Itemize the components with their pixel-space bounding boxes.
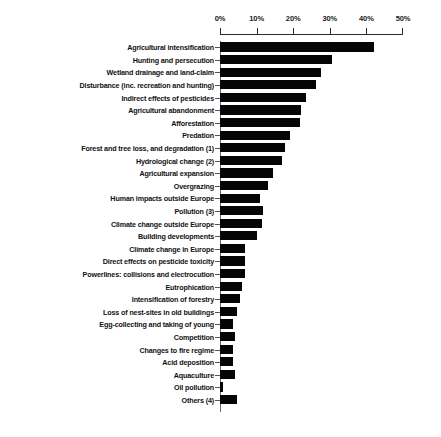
bar: [220, 118, 300, 127]
bar-row: Direct effects on pesticide toxicity: [0, 255, 441, 268]
category-label: Changes to fire regime: [139, 345, 214, 354]
category-label: Acid deposition: [162, 358, 214, 367]
bar: [220, 307, 237, 316]
bar: [220, 168, 273, 177]
bar: [220, 256, 245, 265]
bar-row: Human impacts outside Europe: [0, 192, 441, 205]
bar-row: Climate change outside Europe: [0, 217, 441, 230]
bar-track: [220, 230, 435, 243]
bar-track: [220, 318, 435, 331]
bar-track: [220, 381, 435, 394]
bar: [220, 143, 285, 152]
category-label: Predation: [182, 131, 214, 140]
category-label: Building developments: [138, 232, 214, 241]
bar-row: Overgrazing: [0, 180, 441, 193]
x-axis-tick-label: 20%: [286, 14, 301, 23]
bar-track: [220, 117, 435, 130]
bar-track: [220, 54, 435, 67]
bar-track: [220, 205, 435, 218]
bar-row: Intensification of forestry: [0, 293, 441, 306]
bar: [220, 395, 237, 404]
x-axis-tick-mark: [257, 28, 258, 35]
category-label: Overgrazing: [174, 181, 214, 190]
bar-track: [220, 91, 435, 104]
category-label: Forest and tree loss, and degradation (1…: [81, 144, 214, 153]
bar: [220, 269, 245, 278]
x-axis-tick-label: 0%: [215, 14, 226, 23]
x-axis-tick-mark: [220, 28, 221, 35]
category-label: Intensification of forestry: [132, 295, 214, 304]
bar: [220, 231, 257, 240]
bar-row: Predation: [0, 129, 441, 142]
x-axis-tick-mark: [330, 28, 331, 35]
bar-track: [220, 104, 435, 117]
category-label: Aquaculture: [174, 370, 214, 379]
category-label: Human impacts outside Europe: [110, 194, 214, 203]
bar-rows: Agricultural intensificationHunting and …: [0, 41, 441, 406]
bar-track: [220, 293, 435, 306]
bar: [220, 357, 233, 366]
bar-row: Indirect effects of pesticides: [0, 91, 441, 104]
bar-row: Pollution (3): [0, 205, 441, 218]
category-label: Others (4): [182, 395, 214, 404]
category-label: Disturbance (inc. recreation and hunting…: [80, 81, 214, 90]
category-label: Powerlines: collisions and electrocution: [83, 269, 214, 278]
bar: [220, 105, 301, 114]
x-axis-tick-label: 50%: [396, 14, 411, 23]
bar-track: [220, 368, 435, 381]
bar-track: [220, 129, 435, 142]
bar: [220, 68, 321, 77]
category-label: Hydrological change (2): [136, 156, 214, 165]
category-label: Indirect effects of pesticides: [121, 93, 214, 102]
category-label: Oil pollution: [174, 383, 214, 392]
bar-row: Loss of nest-sites in old buildings: [0, 305, 441, 318]
category-label: Eutrophication: [165, 282, 214, 291]
bar-track: [220, 79, 435, 92]
bar-track: [220, 331, 435, 344]
bar-row: Hunting and persecution: [0, 54, 441, 67]
category-label: Loss of nest-sites in old buildings: [103, 307, 214, 316]
x-axis-tick-label: 30%: [322, 14, 337, 23]
bar-track: [220, 41, 435, 54]
bar-row: Agricultural intensification: [0, 41, 441, 54]
bar: [220, 93, 306, 102]
category-label: Afforestation: [171, 118, 214, 127]
bar: [220, 131, 290, 140]
bar-track: [220, 394, 435, 407]
bar-track: [220, 268, 435, 281]
x-axis-tick-mark: [402, 28, 403, 35]
category-label: Climate change in Europe: [129, 244, 214, 253]
bar-chart: 0%10%20%30%40%50% Agricultural intensifi…: [0, 0, 441, 437]
bar-row: Aquaculture: [0, 368, 441, 381]
bar-row: Climate change in Europe: [0, 243, 441, 256]
bar-row: Powerlines: collisions and electrocution: [0, 268, 441, 281]
bar: [220, 382, 223, 391]
category-label: Agricultural intensification: [127, 43, 214, 52]
bar-row: Others (4): [0, 394, 441, 407]
bar: [220, 319, 233, 328]
bar: [220, 181, 268, 190]
x-axis-tick-mark: [293, 28, 294, 35]
bar-track: [220, 66, 435, 79]
bar-track: [220, 243, 435, 256]
x-axis-tick-label: 10%: [249, 14, 264, 23]
bar-row: Oil pollution: [0, 381, 441, 394]
bar: [220, 370, 235, 379]
bar-row: Forest and tree loss, and degradation (1…: [0, 142, 441, 155]
x-axis: 0%10%20%30%40%50%: [220, 14, 403, 42]
bar-row: Disturbance (inc. recreation and hunting…: [0, 79, 441, 92]
bar-track: [220, 305, 435, 318]
bar-row: Acid deposition: [0, 356, 441, 369]
bar: [220, 332, 235, 341]
bar: [220, 42, 374, 51]
bar-row: Afforestation: [0, 117, 441, 130]
category-label: Hunting and persecution: [133, 55, 214, 64]
bar-track: [220, 192, 435, 205]
bar-track: [220, 343, 435, 356]
category-label: Wetland drainage and land-claim: [107, 68, 214, 77]
bar: [220, 80, 316, 89]
bar: [220, 55, 332, 64]
bar: [220, 282, 242, 291]
category-label: Competition: [174, 332, 214, 341]
bar-row: Eutrophication: [0, 280, 441, 293]
